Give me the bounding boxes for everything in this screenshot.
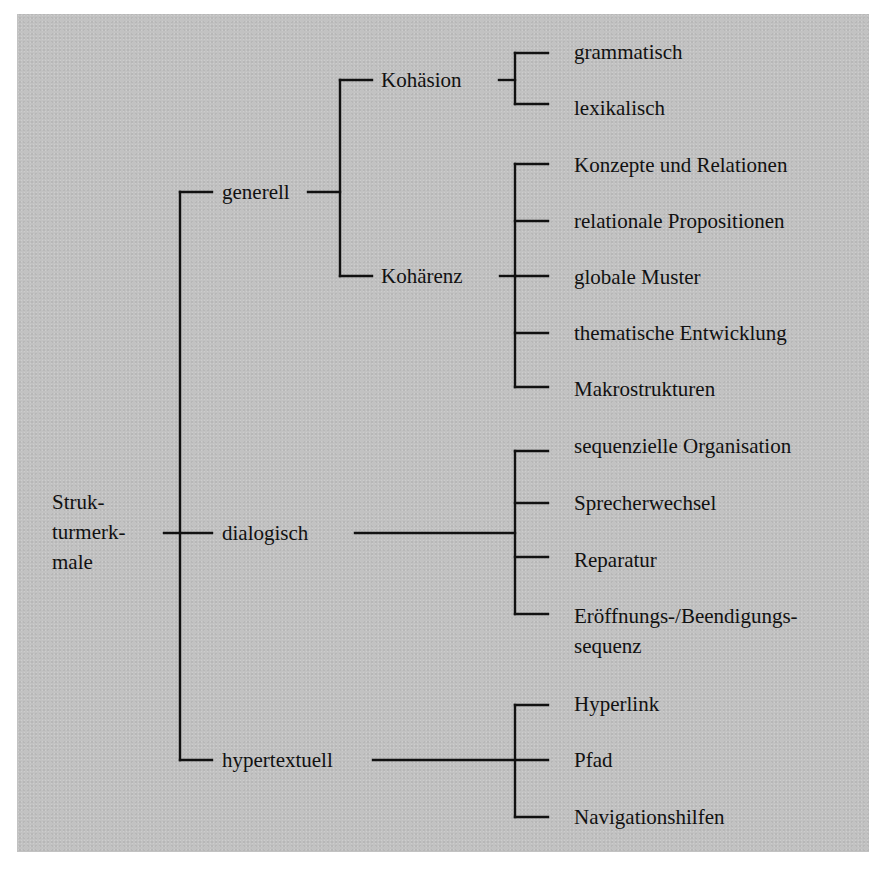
- leaf-sequenzielle-organisation: sequenzielle Organisation: [574, 433, 791, 459]
- node-generell: generell: [222, 179, 290, 205]
- leaf-globale-muster: globale Muster: [574, 264, 701, 290]
- leaf-navigationshilfen: Navigationshilfen: [574, 804, 724, 830]
- leaf-eroeffnungs-beendigungssequenz: Eröffnungs-/Beendigungs- sequenz: [574, 601, 798, 661]
- leaf-konzepte-und-relationen: Konzepte und Relationen: [574, 152, 787, 178]
- leaf-sprecherwechsel: Sprecherwechsel: [574, 490, 716, 516]
- node-dialogisch: dialogisch: [222, 520, 308, 546]
- leaf-reparatur: Reparatur: [574, 547, 657, 573]
- node-kohaerenz: Kohärenz: [381, 263, 463, 289]
- leaf-relationale-propositionen: relationale Propositionen: [574, 208, 785, 234]
- root-node-strukturmerkmale: Struk- turmerk- male: [52, 487, 125, 577]
- leaf-makrostrukturen: Makrostrukturen: [574, 376, 715, 402]
- node-hypertextuell: hypertextuell: [222, 747, 333, 773]
- leaf-pfad: Pfad: [574, 747, 613, 773]
- leaf-lexikalisch: lexikalisch: [574, 95, 665, 121]
- leaf-thematische-entwicklung: thematische Entwicklung: [574, 320, 787, 346]
- leaf-grammatisch: grammatisch: [574, 39, 682, 65]
- leaf-hyperlink: Hyperlink: [574, 691, 659, 717]
- node-kohaesion: Kohäsion: [381, 67, 462, 93]
